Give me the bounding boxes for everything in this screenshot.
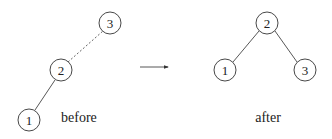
- node-label: 3: [302, 63, 309, 78]
- after-node-1: 1: [214, 59, 236, 81]
- before-edge-2-3: [68, 31, 103, 62]
- after-node-2: 2: [256, 12, 278, 34]
- before-caption: before: [61, 110, 97, 125]
- tree-rotation-diagram: 3 2 1 before 2 1: [0, 0, 332, 139]
- before-node-1: 1: [18, 109, 40, 131]
- after-edge-2-1: [233, 31, 259, 62]
- after-tree: 2 1 3 after: [214, 12, 316, 125]
- node-label: 3: [107, 16, 114, 31]
- node-label: 1: [26, 113, 33, 128]
- after-node-3: 3: [294, 59, 316, 81]
- node-label: 1: [222, 63, 229, 78]
- after-edge-2-3: [275, 31, 297, 62]
- before-node-3: 3: [99, 12, 121, 34]
- before-tree: 3 2 1 before: [18, 12, 121, 131]
- before-node-2: 2: [50, 59, 72, 81]
- node-label: 2: [264, 16, 271, 31]
- before-edge-2-1: [35, 80, 55, 110]
- diagram-svg: 3 2 1 before 2 1: [0, 0, 332, 139]
- after-caption: after: [255, 110, 281, 125]
- node-label: 2: [58, 63, 65, 78]
